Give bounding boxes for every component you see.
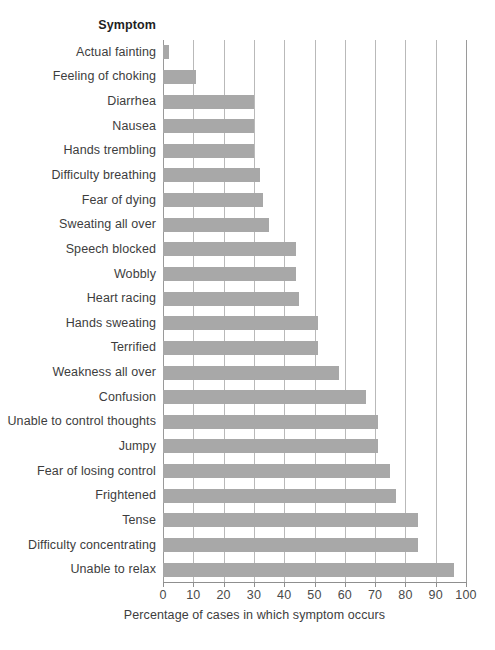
bar [163, 168, 260, 182]
bar-row: Hands sweating [0, 311, 495, 336]
x-tick-label: 50 [307, 588, 321, 602]
bar-row: Sweating all over [0, 212, 495, 237]
category-label: Weakness all over [52, 365, 156, 379]
bar [163, 316, 318, 330]
x-tick-label: 40 [277, 588, 291, 602]
category-label: Hands sweating [66, 316, 156, 330]
category-label: Frightened [95, 488, 156, 502]
tick-mark-100 [466, 582, 467, 587]
category-label: Fear of dying [82, 193, 156, 207]
bar [163, 218, 269, 232]
bar-row: Difficulty breathing [0, 163, 495, 188]
tick-mark-80 [405, 582, 406, 587]
bar [163, 439, 378, 453]
category-label: Actual fainting [76, 45, 156, 59]
bar [163, 341, 318, 355]
bar [163, 119, 254, 133]
bar [163, 292, 299, 306]
category-label: Confusion [99, 390, 156, 404]
x-tick-label: 60 [338, 588, 352, 602]
tick-mark-10 [193, 582, 194, 587]
bar-row: Frightened [0, 483, 495, 508]
bar-row: Hands trembling [0, 139, 495, 164]
category-label: Diarrhea [107, 94, 156, 108]
category-label: Difficulty breathing [51, 168, 156, 182]
bar [163, 95, 254, 109]
x-tick-label: 20 [216, 588, 230, 602]
bar [163, 267, 296, 281]
bar [163, 489, 396, 503]
bar [163, 464, 390, 478]
bar-row: Weakness all over [0, 360, 495, 385]
category-label: Jumpy [119, 439, 156, 453]
bar-row: Speech blocked [0, 237, 495, 262]
x-axis-title-wrap: Percentage of cases in which symptom occ… [0, 608, 495, 622]
bar-row: Jumpy [0, 434, 495, 459]
bar-row: Wobbly [0, 262, 495, 287]
category-label: Tense [122, 513, 156, 527]
x-tick-label: 80 [398, 588, 412, 602]
bar-row: Tense [0, 508, 495, 533]
tick-mark-50 [315, 582, 316, 587]
x-axis-title: Percentage of cases in which symptom occ… [124, 608, 385, 622]
tick-mark-70 [375, 582, 376, 587]
bar [163, 390, 366, 404]
x-tick-label: 70 [368, 588, 382, 602]
category-label: Hands trembling [63, 143, 156, 157]
bar-row: Difficulty concentrating [0, 533, 495, 558]
tick-mark-20 [224, 582, 225, 587]
bar-row: Fear of dying [0, 188, 495, 213]
category-label: Speech blocked [66, 242, 156, 256]
x-tick-label: 30 [247, 588, 261, 602]
tick-mark-40 [284, 582, 285, 587]
bar-row: Heart racing [0, 286, 495, 311]
category-label: Heart racing [87, 291, 156, 305]
symptom-column-header: Symptom [98, 18, 156, 32]
bar [163, 45, 169, 59]
chart-header: Symptom [0, 18, 495, 38]
bar-row: Unable to control thoughts [0, 410, 495, 435]
bar [163, 538, 418, 552]
bar-row: Actual fainting [0, 40, 495, 65]
bar-chart: Symptom Actual faintingFeeling of chokin… [0, 0, 495, 650]
category-label: Fear of losing control [37, 464, 156, 478]
bar [163, 193, 263, 207]
bar [163, 513, 418, 527]
bar [163, 415, 378, 429]
bar [163, 144, 254, 158]
x-tick-label: 90 [429, 588, 443, 602]
x-tick-label: 0 [159, 588, 166, 602]
bar [163, 366, 339, 380]
bar-row: Nausea [0, 114, 495, 139]
x-tick-label: 10 [186, 588, 200, 602]
bar-row: Diarrhea [0, 89, 495, 114]
bar-rows: Actual faintingFeeling of chokingDiarrhe… [0, 40, 495, 582]
bar [163, 563, 454, 577]
x-axis-ticks: 0102030405060708090100 [163, 582, 466, 606]
bar [163, 242, 296, 256]
bar-row: Unable to relax [0, 557, 495, 582]
tick-mark-0 [163, 582, 164, 587]
bar-row: Feeling of choking [0, 65, 495, 90]
bar [163, 70, 196, 84]
category-label: Unable to relax [70, 562, 156, 576]
tick-mark-30 [254, 582, 255, 587]
category-label: Sweating all over [59, 217, 156, 231]
category-label: Unable to control thoughts [7, 414, 156, 428]
x-tick-label: 100 [455, 588, 476, 602]
category-label: Feeling of choking [53, 69, 156, 83]
tick-mark-60 [345, 582, 346, 587]
tick-mark-90 [436, 582, 437, 587]
bar-row: Fear of losing control [0, 459, 495, 484]
category-label: Terrified [111, 340, 156, 354]
bar-row: Confusion [0, 385, 495, 410]
category-label: Difficulty concentrating [28, 538, 156, 552]
bar-row: Terrified [0, 336, 495, 361]
category-label: Wobbly [114, 267, 156, 281]
category-label: Nausea [112, 119, 156, 133]
